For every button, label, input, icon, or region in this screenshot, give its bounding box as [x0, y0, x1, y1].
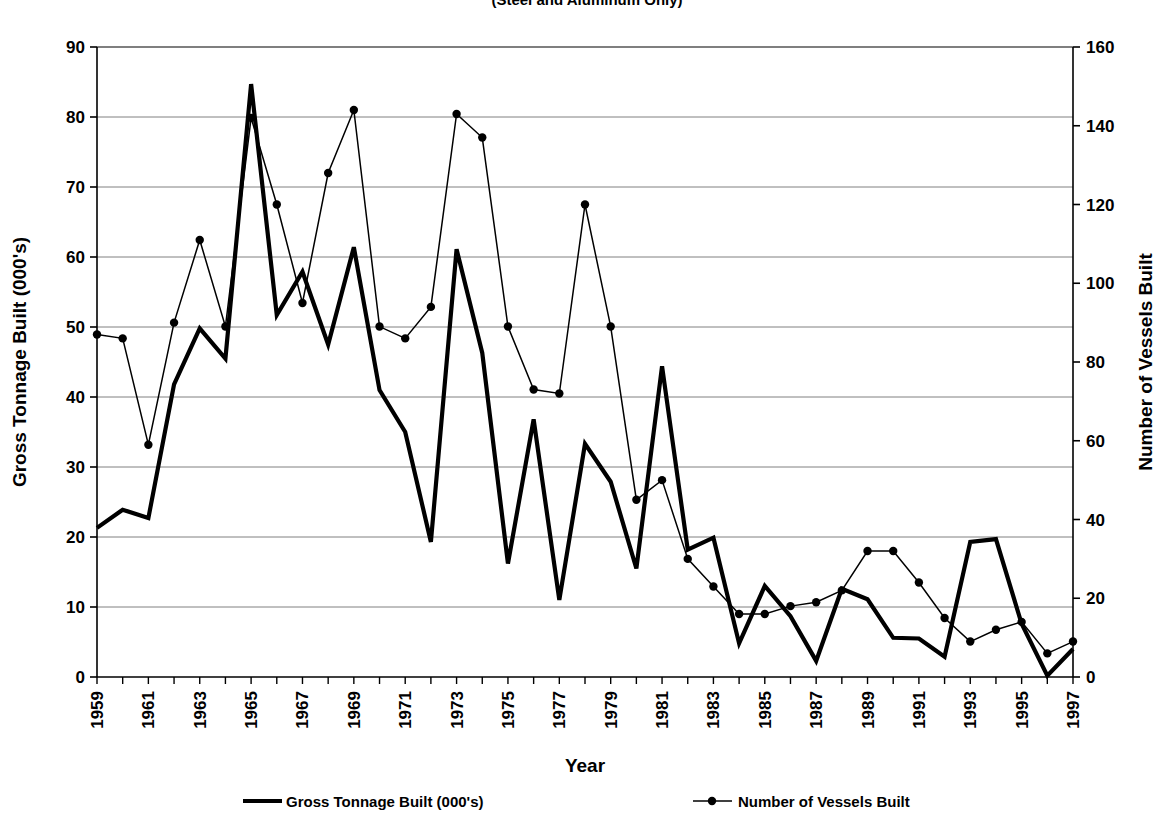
- vessels-line: [97, 110, 1073, 653]
- vessels-data-point: [93, 330, 101, 338]
- vessels-data-point: [786, 602, 794, 610]
- left-tick-label: 80: [66, 108, 85, 127]
- vessels-data-point: [144, 440, 152, 448]
- vessels-data-point: [992, 626, 1000, 634]
- vessels-data-point: [735, 610, 743, 618]
- left-tick-label: 0: [76, 668, 85, 687]
- right-tick-label: 60: [1086, 432, 1105, 451]
- x-tick-label: 1997: [1064, 691, 1083, 729]
- vessels-data-point: [658, 476, 666, 484]
- legend-item-tonnage[interactable]: Gross Tonnage Built (000's): [243, 793, 484, 810]
- left-tick-label: 50: [66, 318, 85, 337]
- vessels-data-point: [581, 200, 589, 208]
- x-tick-label: 1977: [550, 691, 569, 729]
- vessels-data-point: [889, 547, 897, 555]
- vessels-data-point: [375, 322, 383, 330]
- vessels-data-point: [940, 614, 948, 622]
- series-gross-tonnage-built: [97, 84, 1073, 676]
- x-tick-label: 1961: [139, 691, 158, 729]
- vessels-data-point: [555, 389, 563, 397]
- vessels-data-point: [863, 547, 871, 555]
- right-axis-ticks: [1073, 47, 1080, 677]
- vessels-data-point: [684, 555, 692, 563]
- x-tick-label: 1967: [293, 691, 312, 729]
- x-axis-ticks: [97, 677, 1073, 684]
- right-tick-label: 120: [1086, 196, 1114, 215]
- x-tick-label: 1981: [653, 691, 672, 729]
- vessels-data-point: [915, 578, 923, 586]
- vessels-data-point: [273, 200, 281, 208]
- x-axis-tick-labels: 1959196119631965196719691971197319751977…: [88, 691, 1083, 729]
- vessels-data-point: [632, 496, 640, 504]
- x-tick-label: 1959: [88, 691, 107, 729]
- left-axis-title: Gross Tonnage Built (000's): [9, 237, 30, 487]
- chart-container: (Steel and Aluminum Only) 01020304050607…: [0, 0, 1174, 827]
- x-tick-label: 1983: [704, 691, 723, 729]
- right-axis-title: Number of Vessels Built: [1135, 253, 1156, 471]
- x-tick-label: 1975: [499, 691, 518, 729]
- vessels-data-point: [170, 318, 178, 326]
- left-tick-label: 20: [66, 528, 85, 547]
- vessels-data-point: [1043, 649, 1051, 657]
- vessels-data-point: [427, 303, 435, 311]
- vessels-data-point: [504, 322, 512, 330]
- vessels-data-point: [812, 598, 820, 606]
- x-tick-label: 1989: [859, 691, 878, 729]
- left-tick-label: 60: [66, 248, 85, 267]
- left-tick-label: 70: [66, 178, 85, 197]
- x-tick-label: 1993: [961, 691, 980, 729]
- vessels-data-point: [118, 334, 126, 342]
- legend: Gross Tonnage Built (000's) Number of Ve…: [243, 793, 910, 810]
- x-tick-label: 1979: [602, 691, 621, 729]
- left-tick-label: 40: [66, 388, 85, 407]
- legend-item-vessels[interactable]: Number of Vessels Built: [693, 793, 910, 810]
- x-tick-label: 1985: [756, 691, 775, 729]
- right-tick-label: 0: [1086, 668, 1095, 687]
- vessels-data-point: [452, 110, 460, 118]
- tonnage-line: [97, 84, 1073, 676]
- left-axis-ticks: [90, 47, 97, 677]
- x-tick-label: 1969: [345, 691, 364, 729]
- vessels-data-point: [401, 334, 409, 342]
- right-tick-label: 40: [1086, 511, 1105, 530]
- x-axis-title: Year: [565, 755, 606, 776]
- legend-label-tonnage: Gross Tonnage Built (000's): [286, 793, 484, 810]
- right-tick-label: 160: [1086, 38, 1114, 57]
- vessels-data-point: [709, 582, 717, 590]
- x-tick-label: 1995: [1013, 691, 1032, 729]
- x-tick-label: 1963: [191, 691, 210, 729]
- right-tick-label: 80: [1086, 353, 1105, 372]
- legend-swatch-dot-icon: [708, 797, 716, 805]
- vessels-data-point: [324, 169, 332, 177]
- x-tick-label: 1965: [242, 691, 261, 729]
- right-tick-label: 140: [1086, 117, 1114, 136]
- vessels-data-point: [1069, 637, 1077, 645]
- x-tick-label: 1971: [396, 691, 415, 729]
- x-tick-label: 1973: [448, 691, 467, 729]
- vessels-data-point: [529, 385, 537, 393]
- right-tick-label: 20: [1086, 589, 1105, 608]
- right-tick-label: 100: [1086, 274, 1114, 293]
- chart-subtitle: (Steel and Aluminum Only): [0, 0, 1174, 8]
- left-tick-label: 30: [66, 458, 85, 477]
- vessels-data-point: [298, 299, 306, 307]
- vessels-data-point: [761, 610, 769, 618]
- x-tick-label: 1991: [910, 691, 929, 729]
- line-chart: 0102030405060708090 02040608010012014016…: [0, 0, 1174, 827]
- vessels-data-point: [350, 106, 358, 114]
- left-axis-tick-labels: 0102030405060708090: [66, 38, 85, 687]
- right-axis-tick-labels: 020406080100120140160: [1086, 38, 1114, 687]
- legend-label-vessels: Number of Vessels Built: [738, 793, 910, 810]
- gridlines: [97, 117, 1073, 607]
- x-tick-label: 1987: [807, 691, 826, 729]
- vessels-data-point: [606, 322, 614, 330]
- left-tick-label: 10: [66, 598, 85, 617]
- left-tick-label: 90: [66, 38, 85, 57]
- vessels-data-point: [478, 133, 486, 141]
- vessels-data-point: [196, 236, 204, 244]
- vessels-data-point: [966, 637, 974, 645]
